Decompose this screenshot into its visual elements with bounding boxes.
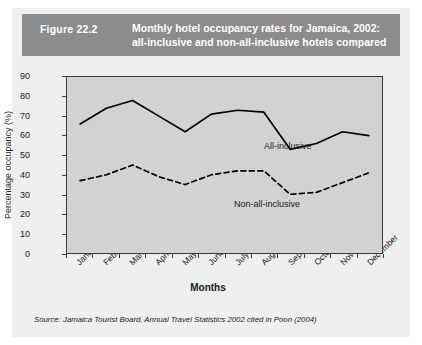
y-tick-label: 10: [8, 229, 30, 239]
non-all-inclusive-line: [80, 165, 369, 194]
plot-area: [66, 76, 383, 254]
y-tick-label: 70: [8, 111, 30, 121]
x-tick-mark: [66, 254, 67, 258]
figure-title-line-1: Monthly hotel occupancy rates for Jamaic…: [132, 22, 390, 36]
figure-number: Figure 22.2: [40, 23, 98, 35]
y-tick-label: 60: [8, 130, 30, 140]
y-tick-label: 20: [8, 209, 30, 219]
all-inclusive-annotation: All-inclusive: [264, 141, 312, 151]
figure-title-line-2: all-inclusive and non-all-inclusive hote…: [132, 36, 390, 50]
chart-area: Percentage occupancy (%) 010203040506070…: [12, 56, 410, 304]
y-tick-label: 0: [8, 249, 30, 259]
x-axis-title: Months: [190, 282, 226, 293]
figure-header: Figure 22.2 Monthly hotel occupancy rate…: [22, 14, 400, 56]
figure-title: Monthly hotel occupancy rates for Jamaic…: [132, 22, 390, 49]
y-tick-label: 40: [8, 170, 30, 180]
series-lines: [67, 77, 382, 253]
non-all-inclusive-annotation: Non-all-inclusive: [234, 199, 300, 209]
y-tick-label: 30: [8, 190, 30, 200]
y-axis-label: Percentage occupancy (%): [3, 111, 13, 219]
y-tick-label: 50: [8, 150, 30, 160]
all-inclusive-line: [80, 100, 369, 149]
y-tick-label: 90: [8, 71, 30, 81]
figure-container: Figure 22.2 Monthly hotel occupancy rate…: [12, 8, 410, 337]
y-tick-label: 80: [8, 91, 30, 101]
source-caption: Source: Jamaica Tourist Board, Annual Tr…: [34, 315, 317, 324]
